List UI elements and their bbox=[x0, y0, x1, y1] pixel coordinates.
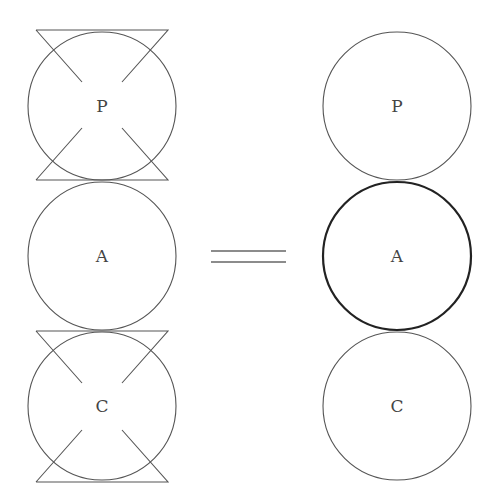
bottom-cross-lines bbox=[36, 430, 168, 482]
label-p-right: P bbox=[391, 96, 402, 116]
bottom-cross-lines bbox=[36, 128, 168, 180]
label-c-left: C bbox=[95, 396, 108, 416]
diagram: P A C P A C bbox=[0, 0, 500, 501]
diagram-canvas: P A C P A C bbox=[0, 0, 500, 501]
left-labels: P A C bbox=[95, 96, 109, 416]
top-cross-lines bbox=[36, 30, 168, 82]
equals-sign bbox=[211, 251, 286, 262]
label-c-right: C bbox=[390, 396, 403, 416]
label-a-right: A bbox=[390, 246, 404, 266]
top-cross-lines bbox=[36, 331, 168, 383]
label-a-left: A bbox=[95, 246, 109, 266]
right-labels: P A C bbox=[390, 96, 404, 416]
label-p-left: P bbox=[96, 96, 107, 116]
